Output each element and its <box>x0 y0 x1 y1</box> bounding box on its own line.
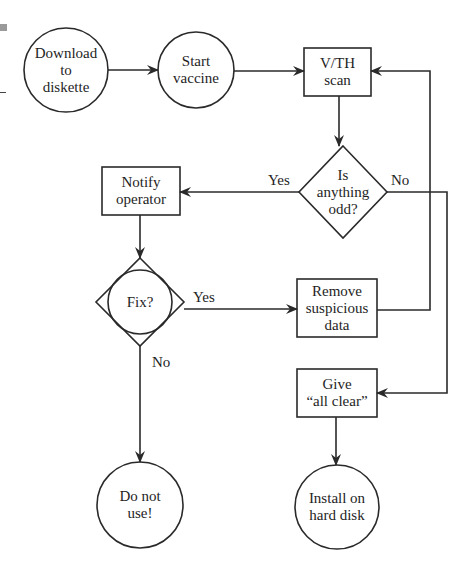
node-download-line-2: to <box>60 62 72 79</box>
node-remove-line-3: data <box>325 317 350 334</box>
node-scan-line-1: V/TH <box>320 55 355 72</box>
node-clear-line-2: “all clear” <box>306 393 367 410</box>
node-notify: Notify operator <box>102 172 180 210</box>
edge-label-fix-no: No <box>152 354 170 371</box>
node-start-line-1: Start <box>182 53 210 70</box>
node-install-line-1: Install on <box>309 490 365 507</box>
node-notify-line-1: Notify <box>121 174 160 191</box>
node-notify-line-2: operator <box>116 191 166 208</box>
node-odd-line-2: anything <box>317 184 370 201</box>
edge-label-odd-yes: Yes <box>268 172 290 189</box>
node-start: Start vaccine <box>158 52 234 88</box>
node-fix: Fix? <box>110 292 170 312</box>
node-odd-line-3: odd? <box>328 201 357 218</box>
node-install: Install on hard disk <box>295 489 379 525</box>
edge-label-fix-yes: Yes <box>193 289 215 306</box>
node-download: Download to diskette <box>24 44 108 96</box>
node-clear: Give “all clear” <box>297 374 377 412</box>
node-scan-line-2: scan <box>324 72 351 89</box>
edge-odd-clear <box>377 192 447 393</box>
node-donotuse: Do not use! <box>100 487 180 523</box>
node-donotuse-line-1: Do not <box>119 488 160 505</box>
edge-label-odd-no: No <box>391 172 409 189</box>
node-odd: Is anything odd? <box>303 166 383 218</box>
node-download-line-3: diskette <box>43 79 90 96</box>
node-remove-line-2: suspicious <box>306 300 369 317</box>
node-fix-line-1: Fix? <box>127 294 154 311</box>
node-install-line-2: hard disk <box>309 507 364 524</box>
node-remove-line-1: Remove <box>312 283 362 300</box>
node-odd-line-1: Is <box>338 167 349 184</box>
node-start-line-2: vaccine <box>173 70 219 87</box>
node-donotuse-line-2: use! <box>128 505 153 522</box>
node-download-line-1: Download <box>35 45 98 62</box>
node-clear-line-1: Give <box>322 376 351 393</box>
node-scan: V/TH scan <box>304 53 371 91</box>
node-remove: Remove suspicious data <box>297 282 377 334</box>
